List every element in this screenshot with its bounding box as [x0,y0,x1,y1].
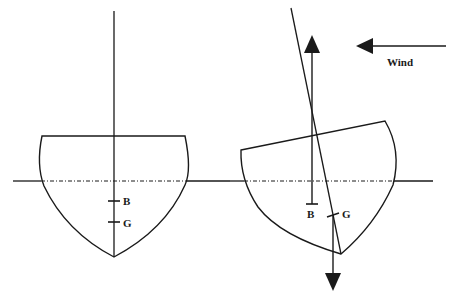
heeled-hull-group: B G [230,8,433,291]
stability-diagram: B G B G [0,0,460,302]
upright-b-label: B [123,195,131,207]
heeled-g-label: G [342,208,351,220]
gravity-arrow-head-icon [325,273,341,291]
wind-arrow-head-icon [356,38,373,54]
diagram-canvas: B G B G [0,0,460,302]
heeled-b-label: B [307,208,315,220]
upright-g-label: G [123,217,132,229]
wind-indicator: Wind [356,38,446,68]
wind-label: Wind [387,56,413,68]
upright-hull-group: B G [13,11,230,257]
buoyancy-arrow-head-icon [304,35,320,53]
